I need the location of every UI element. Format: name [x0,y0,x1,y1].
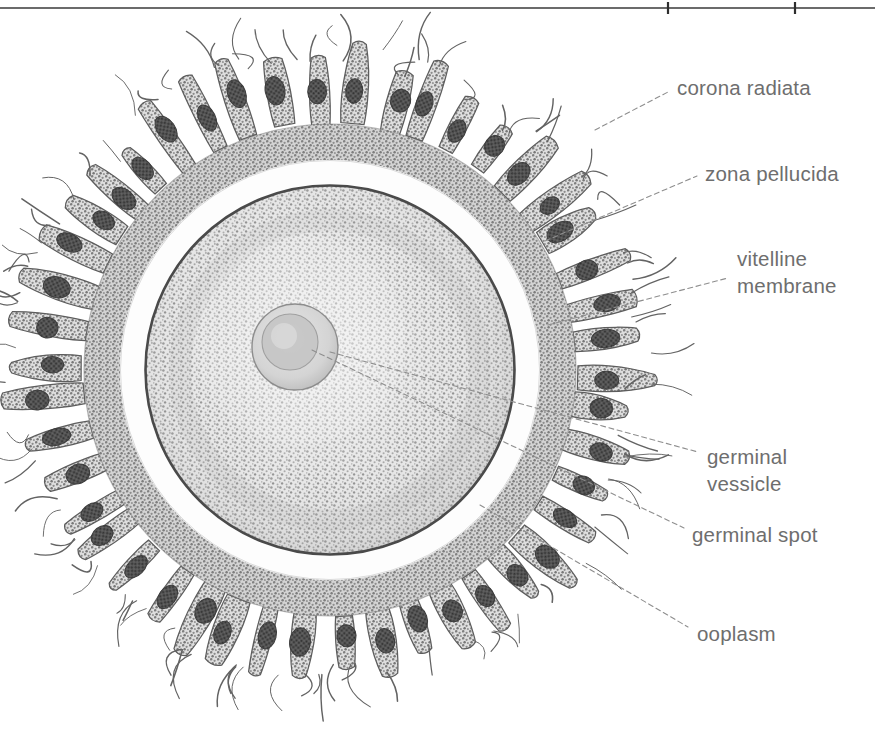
label-text-corona-radiata: corona radiata [677,76,811,99]
ovum-diagram-canvas: corona radiatazona pellucidavitellinemem… [0,0,875,751]
corona-cell-process [541,585,552,603]
corona-cell-process [0,277,20,297]
corona-cell-nucleus [594,371,619,390]
corona-cell-process [518,614,520,643]
corona-cell-process [5,461,35,483]
ovum-figure: corona radiatazona pellucidavitellinemem… [0,0,875,751]
germinal-vessicle-structure [252,304,338,390]
corona-cell-process [608,480,641,493]
label-text-ooplasm: ooplasm [697,622,776,645]
corona-cell-process [171,650,183,686]
corona-cell-process [72,562,91,572]
label-zona-pellucida: zona pellucida [545,162,839,241]
corona-cell-process [186,31,214,67]
corona-cell-process [283,30,297,60]
corona-cell-process [652,344,695,354]
corona-cell-process [115,75,135,116]
corona-cell-process [51,540,75,546]
corona-cell-process [321,675,323,721]
corona-cell-process [314,675,320,694]
corona-cell-process [103,141,120,162]
corona-cell-process [118,601,137,647]
corona-cell-process [2,245,37,254]
label-text-germinal-spot: germinal spot [692,523,818,546]
corona-cell-nucleus [41,356,63,373]
corona-cell-process [233,54,254,69]
corona-cell-process [270,675,282,711]
germinal-spot-highlight [271,323,297,349]
corona-cell-process [548,106,562,142]
corona-cell-process [22,199,60,224]
corona-cell-process [348,664,371,707]
corona-cell-process [0,344,16,355]
scan-border [0,2,875,14]
corona-cell-process [652,384,692,395]
corona-cell-process [232,18,240,59]
corona-cell-process [138,91,158,100]
label-text-germinal-vessicle: germinalvessicle [707,445,787,495]
corona-cell-process [602,515,629,539]
corona-cell-process [35,539,75,556]
corona-cell-process [595,527,628,554]
label-corona-radiata: corona radiata [595,76,811,130]
corona-cell-process [20,229,41,243]
corona-cell-process [15,497,57,511]
corona-cell-process [164,628,175,650]
corona-cell-process [327,665,334,701]
corona-cell-process [491,632,500,651]
corona-cell-process [43,510,60,536]
corona-cell-process [598,192,620,205]
corona-cell-process [162,70,172,89]
leader-line-corona-radiata [595,92,668,130]
corona-cell-nucleus [307,79,327,104]
label-text-zona-pellucida: zona pellucida [705,162,839,185]
corona-cell-process [327,26,337,46]
corona-cell-process [43,177,74,200]
corona-cell-process [633,258,676,280]
corona-cell-process [232,667,243,710]
label-text-vitelline-membrane: vitellinemembrane [737,247,837,297]
corona-cell-process [509,118,540,135]
corona-cell-process [383,21,402,50]
corona-cell-process [537,99,554,132]
corona-cell-process [0,449,32,461]
corona-cell-process [422,34,429,62]
corona-cell-process [173,654,191,698]
corona-cell-process [628,260,654,264]
corona-cell-process [593,205,636,221]
corona-cell-process [73,566,97,595]
